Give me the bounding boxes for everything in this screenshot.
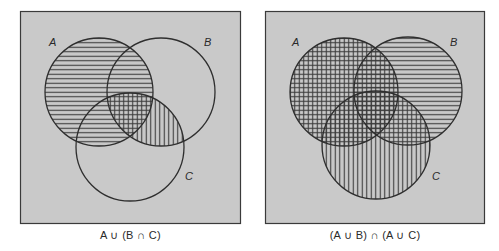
left-label-c: C: [185, 170, 193, 182]
right-label-c: C: [432, 170, 440, 182]
left-panel: A B C: [20, 11, 241, 224]
right-panel: A B C: [265, 11, 485, 224]
left-panel-caption: A ∪ (B ∩ C): [20, 229, 241, 242]
left-label-b: B: [204, 36, 211, 48]
venn-diagram-figure: A B C A B C: [0, 0, 499, 251]
right-panel-caption: (A ∪ B) ∩ (A ∪ C): [265, 229, 485, 242]
left-label-a: A: [48, 36, 56, 48]
right-label-a: A: [291, 36, 299, 48]
right-label-b: B: [450, 36, 457, 48]
